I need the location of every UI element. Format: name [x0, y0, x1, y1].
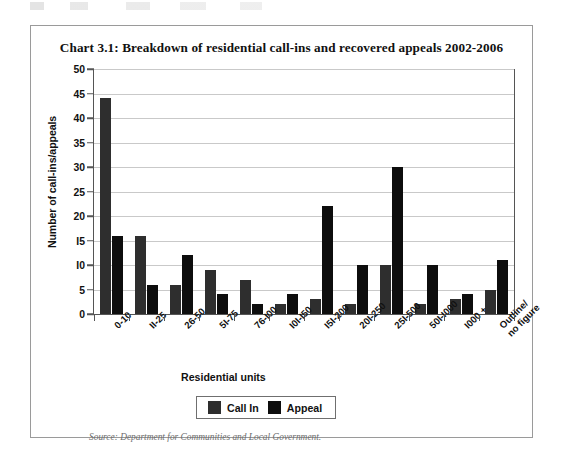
- y-tick-label: 5: [79, 284, 85, 295]
- x-tick-mark: [94, 314, 95, 321]
- x-tick-mark: [444, 314, 445, 321]
- y-tick-label: I0: [76, 260, 85, 271]
- y-tick-label: 25: [73, 186, 85, 197]
- x-tick-mark: [479, 314, 480, 321]
- bar-appeal[interactable]: [147, 285, 159, 314]
- bar-appeal[interactable]: [462, 294, 474, 314]
- bar-appeal[interactable]: [322, 206, 334, 314]
- x-tick-mark: [269, 314, 270, 321]
- x-tick-mark: [304, 314, 305, 321]
- y-tick-mark: [87, 289, 94, 291]
- legend-swatch-callin: [208, 401, 221, 414]
- y-tick-label: 50: [73, 64, 85, 75]
- y-tick-label: 35: [73, 137, 85, 148]
- legend-label: Call In: [227, 402, 259, 414]
- bar-group: [269, 69, 304, 314]
- y-tick-label: 40: [73, 113, 85, 124]
- x-tick-mark: [409, 314, 410, 321]
- bar-appeal[interactable]: [217, 294, 229, 314]
- y-tick-mark: [87, 93, 94, 95]
- bar-appeal[interactable]: [392, 167, 404, 314]
- bar-group: [444, 69, 479, 314]
- x-tick-mark: [164, 314, 165, 321]
- legend-swatch-appeal: [268, 401, 281, 414]
- bar-appeal[interactable]: [287, 294, 299, 314]
- y-tick-label: 20: [73, 211, 85, 222]
- bar-group: [304, 69, 339, 314]
- bar-series-container: [94, 69, 514, 314]
- bar-group: [479, 69, 514, 314]
- legend-item-callin[interactable]: Call In: [208, 401, 259, 414]
- bar-call-in[interactable]: [240, 280, 252, 314]
- x-axis-title: Residential units: [181, 371, 266, 383]
- bar-group: [199, 69, 234, 314]
- chart-legend: Call InAppeal: [196, 396, 336, 419]
- y-tick-mark: [87, 313, 94, 315]
- y-tick-mark: [87, 166, 94, 168]
- y-tick-mark: [87, 68, 94, 70]
- bar-call-in[interactable]: [170, 285, 182, 314]
- y-tick-label: 0: [79, 309, 85, 320]
- bar-call-in[interactable]: [205, 270, 217, 314]
- plot-area: 05I0I520253035404550 0-10II-2526-505I-75…: [93, 69, 514, 315]
- bar-call-in[interactable]: [135, 236, 147, 314]
- y-tick-label: 30: [73, 162, 85, 173]
- y-tick-mark: [87, 215, 94, 217]
- bar-group: [164, 69, 199, 314]
- x-tick-mark: [514, 314, 515, 321]
- bar-group: [409, 69, 444, 314]
- bar-appeal[interactable]: [497, 260, 509, 314]
- bar-group: [339, 69, 374, 314]
- bar-appeal[interactable]: [357, 265, 369, 314]
- chart-figure-frame: Chart 3.1: Breakdown of residential call…: [30, 25, 533, 438]
- y-tick-mark: [87, 191, 94, 193]
- legend-item-appeal[interactable]: Appeal: [268, 401, 322, 414]
- bar-group: [234, 69, 269, 314]
- bar-appeal[interactable]: [112, 236, 124, 314]
- bar-group: [129, 69, 164, 314]
- y-tick-mark: [87, 240, 94, 242]
- source-note: Source: Department for Communities and L…: [89, 432, 321, 442]
- bar-appeal[interactable]: [427, 265, 439, 314]
- x-tick-mark: [374, 314, 375, 321]
- bar-group: [94, 69, 129, 314]
- plot-area-wrapper: Number of call-ins/appeals 05I0I52025303…: [31, 26, 532, 437]
- legend-label: Appeal: [287, 402, 322, 414]
- bar-call-in[interactable]: [100, 98, 112, 314]
- bar-appeal[interactable]: [182, 255, 194, 314]
- bar-group: [374, 69, 409, 314]
- y-tick-mark: [87, 117, 94, 119]
- scan-artifact: [30, 2, 330, 10]
- y-tick-label: 45: [73, 88, 85, 99]
- y-tick-mark: [87, 264, 94, 266]
- y-tick-label: I5: [76, 235, 85, 246]
- x-tick-mark: [199, 314, 200, 321]
- x-tick-mark: [129, 314, 130, 321]
- y-tick-mark: [87, 142, 94, 144]
- y-axis-title: Number of call-ins/appeals: [46, 97, 58, 267]
- x-tick-mark: [339, 314, 340, 321]
- x-tick-mark: [234, 314, 235, 321]
